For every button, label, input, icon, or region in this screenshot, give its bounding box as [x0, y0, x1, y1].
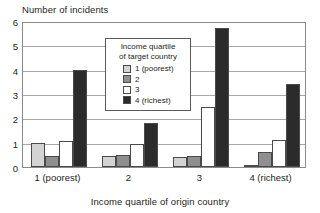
bar	[31, 143, 45, 167]
bar	[215, 28, 229, 167]
y-tick-label: 6	[2, 17, 18, 28]
y-tick-label: 1	[2, 138, 18, 149]
bar	[173, 157, 187, 167]
bar	[272, 140, 286, 167]
legend-title-line-1: Income quartile	[111, 42, 185, 52]
legend-label: 3	[135, 85, 139, 94]
x-tick-label: 2	[126, 172, 131, 183]
y-tick-label: 5	[2, 41, 18, 52]
bar	[59, 141, 73, 167]
y-tick-label: 3	[2, 90, 18, 101]
legend: Income quartile of target country 1 (poo…	[105, 38, 191, 111]
legend-item: 4 (richest)	[123, 96, 185, 105]
x-axis-title: Income quartile of origin country	[0, 196, 320, 207]
x-tick-label: 3	[197, 172, 202, 183]
y-tick-label: 0	[2, 163, 18, 174]
bar	[201, 107, 215, 167]
legend-label: 2	[135, 75, 139, 84]
legend-label: 4 (richest)	[135, 96, 171, 105]
y-axis-title: Number of incidents	[22, 4, 108, 15]
bar	[187, 156, 201, 167]
legend-item: 1 (poorest)	[123, 64, 185, 73]
bar	[130, 144, 144, 167]
legend-label: 1 (poorest)	[135, 64, 174, 73]
legend-item: 2	[123, 75, 185, 84]
bar	[73, 70, 87, 167]
legend-swatch	[123, 96, 131, 104]
legend-swatch	[123, 75, 131, 83]
bar	[45, 156, 59, 167]
legend-swatch	[123, 86, 131, 94]
bar	[144, 123, 158, 167]
legend-title-line-2: of target country	[111, 52, 185, 62]
bar	[244, 165, 258, 167]
legend-item: 3	[123, 85, 185, 94]
bar	[102, 156, 116, 167]
legend-swatch	[123, 65, 131, 73]
x-tick-label: 4 (richest)	[249, 172, 291, 183]
x-tick-label: 1 (poorest)	[35, 172, 81, 183]
legend-title: Income quartile of target country	[111, 42, 185, 61]
gridline	[23, 119, 305, 120]
bar	[258, 152, 272, 167]
bar	[116, 155, 130, 167]
legend-items: 1 (poorest)234 (richest)	[111, 64, 185, 105]
bar	[286, 84, 300, 167]
bar-chart: Number of incidents 0123456 1 (poorest)2…	[0, 0, 320, 213]
y-tick-label: 2	[2, 114, 18, 125]
y-tick-label: 4	[2, 65, 18, 76]
